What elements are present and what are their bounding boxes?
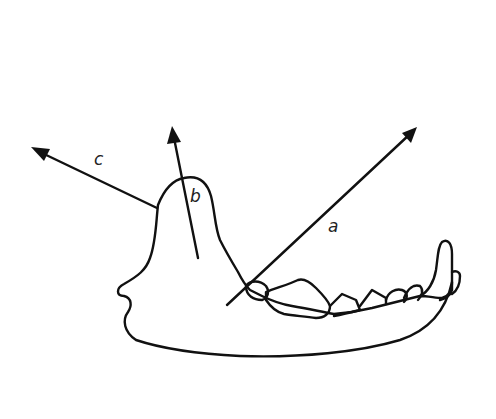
incisor-tooth	[452, 271, 460, 294]
jaw-diagram	[0, 0, 496, 419]
premolar-2	[360, 290, 386, 306]
vector-b-label: b	[190, 188, 201, 205]
canine-tooth	[420, 241, 452, 300]
vector-c-label: c	[94, 151, 103, 168]
mandible-outline	[118, 177, 452, 356]
vector-a-line	[227, 134, 410, 305]
vector-c-arrowhead-icon	[31, 147, 50, 161]
premolar-1	[330, 294, 360, 316]
vector-b-arrowhead-icon	[167, 126, 181, 144]
vector-a-label: a	[328, 218, 338, 235]
